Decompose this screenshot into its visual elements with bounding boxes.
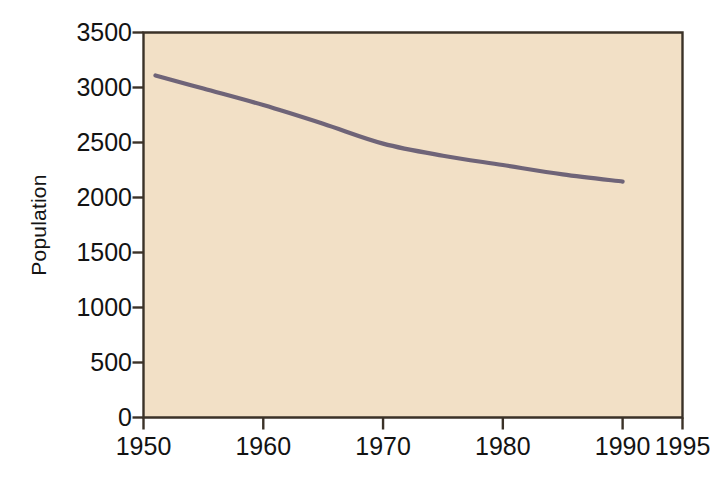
chart-figure: Population 0500100015002000250030003500 … xyxy=(0,0,719,489)
plot-canvas xyxy=(0,0,719,489)
plot-background xyxy=(144,33,683,418)
